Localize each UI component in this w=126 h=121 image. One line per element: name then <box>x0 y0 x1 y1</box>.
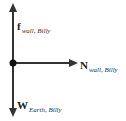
arrowhead-right-icon <box>69 59 78 67</box>
label-friction-force: fwall, Billy <box>17 17 50 33</box>
label-normal-force: Nwall, Billy <box>80 56 118 72</box>
label-weight-symbol: W <box>17 99 28 111</box>
arrowhead-up-icon <box>9 3 17 12</box>
point-object <box>10 60 17 67</box>
label-weight-force: WEarth, Billy <box>17 96 62 112</box>
arrowhead-down-icon <box>9 108 17 117</box>
label-normal-symbol: N <box>80 59 88 71</box>
label-normal-subscript: wall, Billy <box>89 66 118 74</box>
label-weight-subscript: Earth, Billy <box>29 106 62 114</box>
force-arrow-up-friction <box>9 3 17 63</box>
force-arrow-right-normal <box>13 59 78 67</box>
label-friction-subscript: wall, Billy <box>22 27 51 35</box>
label-friction-symbol: f <box>17 20 21 32</box>
force-arrow-down-weight <box>9 63 17 117</box>
